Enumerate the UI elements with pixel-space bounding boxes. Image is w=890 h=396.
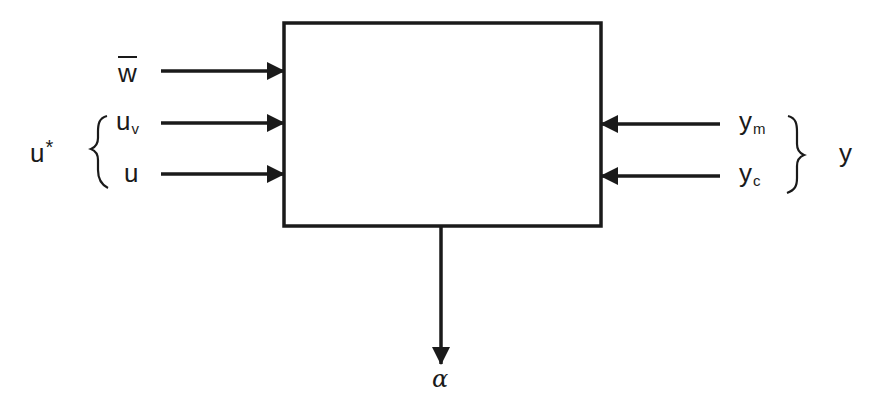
w-bar-text: w <box>118 56 137 86</box>
u-star-base: u <box>30 138 44 168</box>
left-brace-icon <box>91 116 108 188</box>
label-y-c: yc <box>739 160 761 186</box>
label-y-m: ym <box>739 108 766 134</box>
y-text: y <box>839 138 852 168</box>
right-brace-icon <box>787 116 804 193</box>
y-m-subscript: m <box>753 120 766 137</box>
y-c-base: y <box>739 158 752 188</box>
label-w-bar: w <box>118 56 137 86</box>
label-y: y <box>839 140 852 166</box>
label-u: u <box>124 160 138 186</box>
y-c-subscript: c <box>753 172 761 189</box>
y-m-base: y <box>739 106 752 136</box>
system-block <box>284 23 601 226</box>
label-alpha: α <box>432 367 448 391</box>
label-u-star: u* <box>30 140 53 166</box>
u-v-subscript: v <box>131 120 139 137</box>
u-v-base: u <box>116 106 130 136</box>
alpha-text: α <box>432 365 448 393</box>
u-text: u <box>124 158 138 188</box>
u-star-superscript: * <box>45 136 53 158</box>
label-u-v: uv <box>116 108 139 134</box>
